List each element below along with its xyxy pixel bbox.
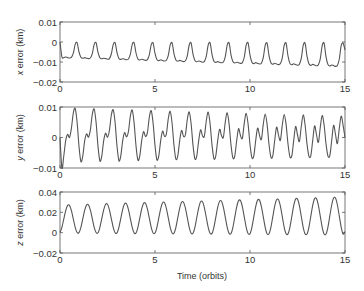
- x-tick-label: 15: [340, 254, 351, 265]
- axes-frame: [60, 107, 345, 168]
- y-axis-label: y error (km): [15, 114, 25, 162]
- x-tick-label: 0: [57, 83, 62, 94]
- x-tick-label: 10: [245, 83, 256, 94]
- series-line: [60, 108, 345, 168]
- y-tick-label: 0.02: [39, 207, 58, 218]
- y-tick-label: −0.02: [33, 248, 57, 259]
- x-tick-label: 5: [152, 83, 157, 94]
- y-axis-label-text: error (km): [15, 199, 25, 241]
- series-line: [60, 197, 345, 235]
- y-tick-label: 0: [52, 227, 57, 238]
- x-tick-label: 0: [57, 169, 62, 180]
- y-tick-label: −0.01: [33, 57, 57, 68]
- x-tick-label: 5: [152, 254, 157, 265]
- y-axis-label: x error (km): [15, 29, 25, 77]
- x-tick-label: 10: [245, 169, 256, 180]
- x-tick-label: 5: [152, 169, 157, 180]
- x-axis-label: Time (orbits): [177, 271, 227, 281]
- series-line: [60, 42, 345, 66]
- y-tick-label: 0.01: [39, 102, 58, 113]
- subplot-z-error: z error (km) Time (orbits) 051015−0.0200…: [15, 187, 350, 282]
- y-tick-label: −0.01: [33, 163, 57, 174]
- y-axis-label-text: error (km): [15, 114, 25, 156]
- y-tick-label: 0: [52, 132, 57, 143]
- y-tick-label: 0.01: [39, 17, 58, 28]
- x-tick-label: 0: [57, 254, 62, 265]
- y-tick-label: 0: [52, 37, 57, 48]
- y-axis-label: z error (km): [15, 199, 25, 247]
- x-tick-label: 10: [245, 254, 256, 265]
- figure: x error (km) 051015−0.02−0.0100.01 y err…: [0, 0, 364, 291]
- y-axis-label-text: error (km): [15, 29, 25, 71]
- x-tick-label: 15: [340, 169, 351, 180]
- x-tick-label: 15: [340, 83, 351, 94]
- subplot-x-error: x error (km) 051015−0.02−0.0100.01: [15, 17, 350, 95]
- y-tick-label: 0.04: [39, 187, 58, 198]
- y-tick-label: −0.02: [33, 77, 57, 88]
- subplot-y-error: y error (km) 051015−0.0100.01: [15, 102, 350, 181]
